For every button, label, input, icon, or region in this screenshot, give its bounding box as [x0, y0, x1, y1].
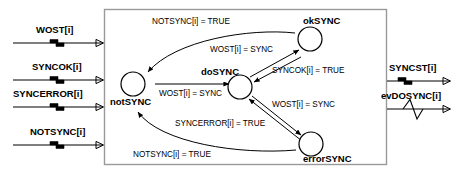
transition-label-t4: WOST[i] = SYNC — [272, 100, 335, 109]
state-label-notsync: notSYNC — [110, 96, 151, 107]
step-signal-icon — [398, 78, 412, 85]
output-port-evdosync: evDOSYNC[i] — [381, 90, 451, 119]
transition-label-t3: SYNCOK[i] = TRUE — [272, 66, 345, 75]
transition-label-t7: NOTSYNC[i] = TRUE — [133, 150, 211, 159]
output-port-syncst: SYNCST[i] — [387, 62, 451, 85]
output-label-syncst: SYNCST[i] — [389, 62, 437, 73]
step-signal-icon — [50, 40, 64, 47]
state-label-oksync: okSYNC — [303, 15, 341, 26]
step-signal-icon — [50, 77, 64, 84]
input-port-notsync: NOTSYNC[i] — [13, 126, 104, 149]
transition-label-t5: SYNCERROR[i] = TRUE — [175, 119, 266, 128]
step-signal-icon — [50, 104, 64, 111]
input-label-wost: WOST[i] — [36, 24, 73, 35]
state-diagram-figure: WOST[i] SYNCOK[i] SYNCERROR[i] NOTSYNC[i… — [0, 0, 458, 176]
output-label-evdosync: evDOSYNC[i] — [381, 90, 441, 101]
input-port-syncok: SYNCOK[i] — [13, 61, 104, 84]
input-port-wost: WOST[i] — [13, 24, 104, 47]
transition-label-t1: WOST[i] = SYNC — [159, 89, 222, 98]
state-label-errorsync: errorSYNC — [303, 153, 352, 164]
state-label-dosync: doSYNC — [201, 66, 239, 77]
input-label-syncerror: SYNCERROR[i] — [13, 88, 83, 99]
input-label-syncok: SYNCOK[i] — [32, 61, 82, 72]
step-signal-icon — [50, 142, 64, 149]
transition-label-t2: WOST[i] = SYNC — [210, 45, 273, 54]
input-label-notsync: NOTSYNC[i] — [30, 126, 85, 137]
diagram-canvas: WOST[i] SYNCOK[i] SYNCERROR[i] NOTSYNC[i… — [0, 0, 458, 176]
input-port-syncerror: SYNCERROR[i] — [13, 88, 104, 111]
transition-label-t6: NOTSYNC[i] = TRUE — [152, 17, 230, 26]
